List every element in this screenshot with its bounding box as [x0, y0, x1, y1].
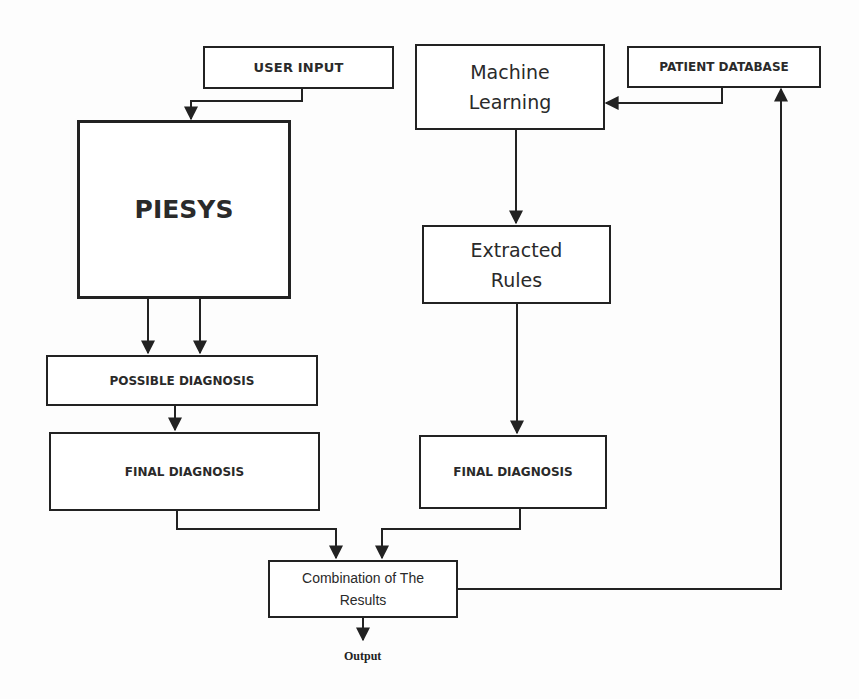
node-combination-line2: Results — [340, 589, 387, 611]
node-patient-database-label: PATIENT DATABASE — [659, 60, 788, 74]
node-piesys: PIESYS — [77, 120, 291, 299]
output-label: Output — [344, 649, 381, 664]
node-final-diagnosis-right: FINAL DIAGNOSIS — [419, 435, 607, 509]
arrow-patientdb-to-ml — [606, 87, 722, 103]
arrow-finalleft-to-combination — [177, 510, 336, 558]
node-machine-learning-line2: Learning — [469, 87, 552, 117]
node-combination-results: Combination of The Results — [268, 560, 458, 618]
arrow-finalright-to-combination — [382, 508, 520, 558]
node-final-diagnosis-left-label: FINAL DIAGNOSIS — [125, 465, 244, 479]
node-possible-diagnosis: POSSIBLE DIAGNOSIS — [46, 355, 318, 406]
node-extracted-rules-line2: Rules — [491, 265, 542, 295]
arrow-userinput-to-piesys — [191, 88, 302, 119]
node-extracted-rules-line1: Extracted — [471, 235, 563, 265]
node-combination-line1: Combination of The — [302, 567, 424, 589]
node-user-input-label: USER INPUT — [253, 60, 343, 75]
node-final-diagnosis-right-label: FINAL DIAGNOSIS — [453, 465, 572, 479]
node-user-input: USER INPUT — [203, 46, 394, 89]
flowchart-canvas: USER INPUT PIESYS Machine Learning PATIE… — [0, 0, 859, 699]
node-piesys-label: PIESYS — [135, 195, 234, 224]
node-possible-diagnosis-label: POSSIBLE DIAGNOSIS — [110, 374, 255, 388]
node-extracted-rules: Extracted Rules — [422, 225, 611, 304]
node-final-diagnosis-left: FINAL DIAGNOSIS — [49, 432, 320, 511]
node-machine-learning: Machine Learning — [415, 44, 605, 130]
node-patient-database: PATIENT DATABASE — [627, 46, 821, 88]
arrow-combination-to-patientdb — [457, 89, 781, 589]
node-machine-learning-line1: Machine — [470, 57, 550, 87]
